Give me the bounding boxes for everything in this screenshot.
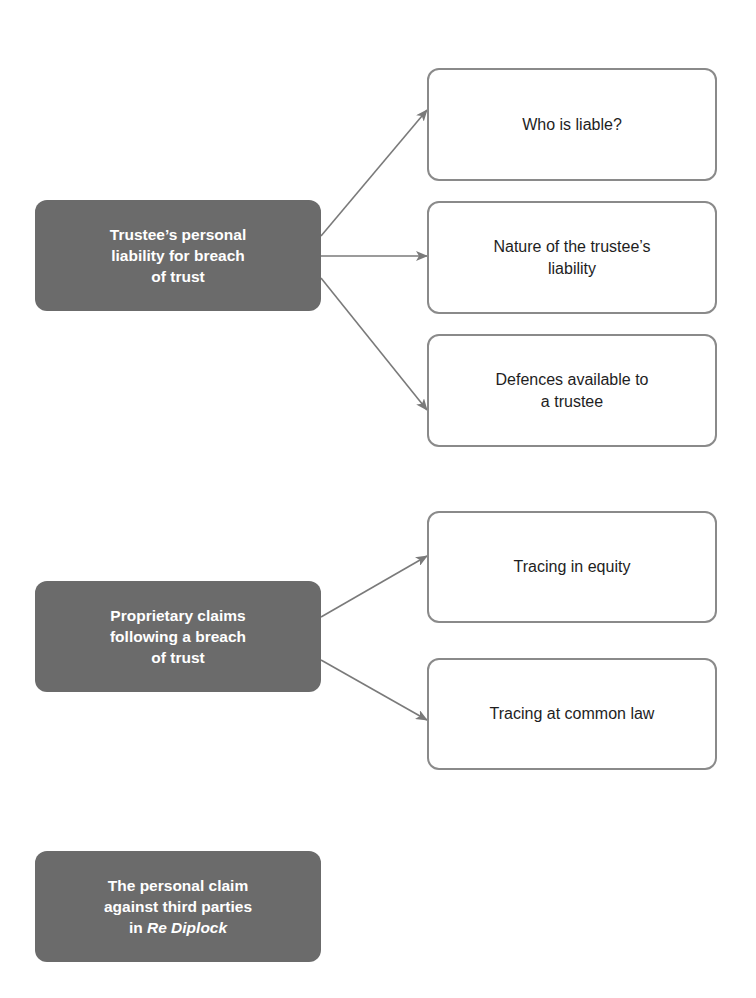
node-line: against third parties <box>104 896 252 917</box>
node-line: Tracing at common law <box>490 703 655 725</box>
arrow-to-tracing-equity <box>321 556 427 617</box>
node-nature-of-liability: Nature of the trustee’s liability <box>427 201 717 314</box>
node-line-prefix: in <box>129 919 147 936</box>
node-tracing-in-equity: Tracing in equity <box>427 511 717 623</box>
node-line: in Re Diplock <box>104 917 252 938</box>
case-name-re-diplock: Re Diplock <box>147 919 227 936</box>
arrow-to-defences <box>321 278 427 410</box>
node-line: of trust <box>110 647 246 668</box>
node-line: liability for breach <box>110 245 246 266</box>
node-line: Trustee’s personal <box>110 224 246 245</box>
node-proprietary-claims: Proprietary claims following a breach of… <box>35 581 321 692</box>
node-defences-available: Defences available to a trustee <box>427 334 717 447</box>
node-line: The personal claim <box>104 875 252 896</box>
node-line: Tracing in equity <box>514 556 631 578</box>
node-line: a trustee <box>496 391 649 413</box>
node-who-is-liable: Who is liable? <box>427 68 717 181</box>
arrow-to-who-is-liable <box>321 110 427 236</box>
arrow-to-tracing-common-law <box>321 660 427 720</box>
node-line: Proprietary claims <box>110 605 246 626</box>
node-line: of trust <box>110 266 246 287</box>
node-line: following a breach <box>110 626 246 647</box>
node-line: Nature of the trustee’s <box>493 236 650 258</box>
node-line: liability <box>493 258 650 280</box>
node-line: Defences available to <box>496 369 649 391</box>
node-trustee-personal-liability: Trustee’s personal liability for breach … <box>35 200 321 311</box>
node-tracing-at-common-law: Tracing at common law <box>427 658 717 770</box>
node-line: Who is liable? <box>522 114 622 136</box>
node-personal-claim-third-parties: The personal claim against third parties… <box>35 851 321 962</box>
